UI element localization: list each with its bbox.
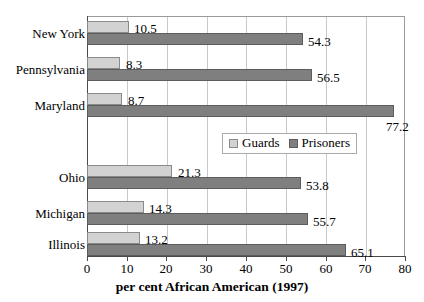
x-tick-label-10: 10	[107, 261, 147, 276]
bar-value-prisoners-new-york: 54.3	[308, 35, 331, 48]
bar-prisoners-pennsylvania	[87, 69, 312, 81]
bar-prisoners-michigan	[87, 213, 308, 225]
category-label-text: Michigan	[35, 206, 85, 221]
category-label-new-york: New York	[0, 26, 85, 41]
chart-legend: Guards Prisoners	[222, 133, 357, 154]
category-label-text: Illinois	[48, 237, 85, 252]
bar-guards-ohio	[87, 165, 172, 177]
bar-guards-michigan	[87, 201, 144, 213]
x-tick-label-50: 50	[266, 261, 306, 276]
legend-label-guards: Guards	[242, 136, 280, 150]
bar-guards-maryland	[87, 93, 122, 105]
bar-value-prisoners-maryland: 77.2	[386, 120, 409, 133]
bar-value-prisoners-illinois: 65.1	[351, 246, 374, 259]
x-tick-label-70: 70	[345, 261, 385, 276]
x-tick-label-60: 60	[306, 261, 346, 276]
bar-prisoners-ohio	[87, 177, 301, 189]
x-tick-label-0: 0	[67, 261, 107, 276]
legend-label-prisoners: Prisoners	[302, 136, 350, 150]
bar-chart: 0 10 20 30 40 50 60 70 80 New York 10.5 …	[0, 0, 424, 302]
category-label-michigan: Michigan	[0, 206, 85, 221]
category-label-text: Maryland	[34, 98, 85, 113]
bar-value-prisoners-ohio: 53.8	[306, 179, 329, 192]
bar-prisoners-illinois	[87, 244, 346, 256]
legend-item-guards: Guards	[229, 136, 280, 150]
x-tick-label-30: 30	[186, 261, 226, 276]
gridline-70	[366, 17, 367, 256]
bar-value-prisoners-michigan: 55.7	[313, 215, 336, 228]
bar-prisoners-new-york	[87, 33, 303, 45]
category-label-illinois: Illinois	[0, 237, 85, 252]
x-tick-label-40: 40	[226, 261, 266, 276]
x-tick-label-80: 80	[385, 261, 424, 276]
x-axis-title: per cent African American (1997)	[0, 279, 424, 295]
legend-swatch-prisoners-icon	[289, 139, 298, 148]
category-label-text: Pennsylvania	[16, 62, 85, 77]
legend-item-prisoners: Prisoners	[289, 136, 350, 150]
legend-swatch-guards-icon	[229, 139, 238, 148]
bar-guards-illinois	[87, 232, 140, 244]
category-label-text: Ohio	[59, 170, 85, 185]
bar-guards-pennsylvania	[87, 57, 120, 69]
bar-prisoners-maryland	[87, 105, 394, 117]
category-label-pennsylvania: Pennsylvania	[0, 62, 85, 77]
category-label-ohio: Ohio	[0, 170, 85, 185]
x-tick-label-20: 20	[146, 261, 186, 276]
bar-guards-new-york	[87, 21, 129, 33]
bar-value-prisoners-pennsylvania: 56.5	[317, 71, 340, 84]
category-label-text: New York	[32, 26, 85, 41]
category-label-maryland: Maryland	[0, 98, 85, 113]
